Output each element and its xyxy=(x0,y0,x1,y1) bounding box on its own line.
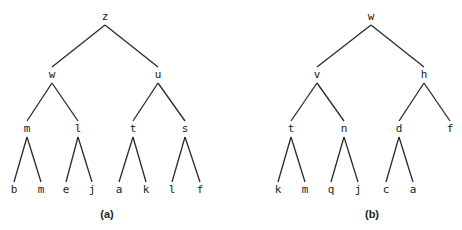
tree-edge xyxy=(386,137,399,182)
tree-node: l xyxy=(75,122,82,135)
tree-edge xyxy=(27,137,41,182)
tree-edge xyxy=(399,137,413,182)
tree-node: j xyxy=(89,183,96,196)
tree-node: u xyxy=(155,68,162,81)
figure-caption: (b) xyxy=(365,208,379,220)
tree-node: h xyxy=(421,68,428,81)
figure-caption: (a) xyxy=(100,208,114,220)
tree-edge xyxy=(119,137,133,182)
tree-node: l xyxy=(169,183,176,196)
tree-edge xyxy=(399,83,424,121)
tree-node: t xyxy=(288,122,295,135)
tree-edge xyxy=(185,137,200,182)
tree-node: c xyxy=(383,183,390,196)
tree-node: n xyxy=(341,122,348,135)
tree-edge xyxy=(14,137,27,182)
tree-node: j xyxy=(355,183,362,196)
captions-layer: (a)(b) xyxy=(100,208,379,220)
tree-edge xyxy=(52,25,105,67)
tree-edge xyxy=(52,83,78,121)
tree-edge xyxy=(133,83,158,121)
tree-edge xyxy=(371,25,424,67)
tree-node: b xyxy=(11,183,18,196)
tree-node: z xyxy=(102,10,109,23)
tree-edge xyxy=(133,137,146,182)
tree-node: v xyxy=(314,68,321,81)
tree-node: a xyxy=(116,183,123,196)
tree-node: k xyxy=(143,183,150,196)
tree-edge xyxy=(105,25,158,67)
tree-node: a xyxy=(410,183,417,196)
tree-edge xyxy=(278,137,291,182)
tree-edge xyxy=(331,137,344,182)
tree-edge xyxy=(344,137,358,182)
tree-node: q xyxy=(328,183,335,196)
tree-edge xyxy=(291,137,305,182)
tree-node: m xyxy=(38,183,45,196)
tree-node: w xyxy=(368,10,375,23)
tree-node: m xyxy=(24,122,31,135)
tree-edge xyxy=(27,83,52,121)
tree-edge xyxy=(66,137,78,182)
tree-edge xyxy=(317,25,371,67)
edges-layer xyxy=(14,25,450,182)
tree-edge xyxy=(424,83,450,121)
tree-edge xyxy=(317,83,344,121)
tree-node: d xyxy=(396,122,403,135)
tree-diagram: zwumltsbmejaklfwvhtndfkmqjca (a)(b) xyxy=(0,0,462,230)
tree-node: f xyxy=(197,183,204,196)
tree-node: f xyxy=(447,122,454,135)
tree-node: s xyxy=(182,122,189,135)
tree-edge xyxy=(172,137,185,182)
tree-node: e xyxy=(63,183,70,196)
tree-node: k xyxy=(275,183,282,196)
tree-node: m xyxy=(302,183,309,196)
tree-edge xyxy=(78,137,92,182)
tree-node: w xyxy=(49,68,56,81)
tree-edge xyxy=(291,83,317,121)
tree-edge xyxy=(158,83,185,121)
tree-node: t xyxy=(130,122,137,135)
